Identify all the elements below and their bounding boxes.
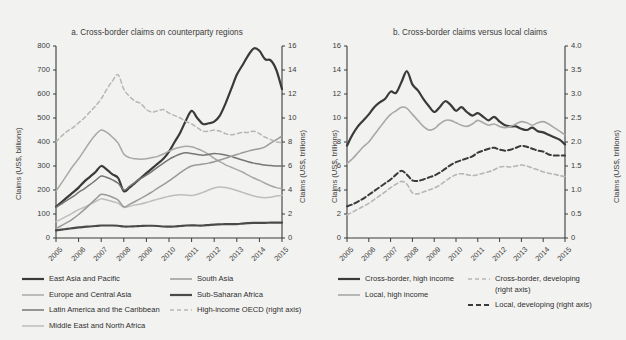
panel-a-ytick-left: 700: [20, 65, 50, 74]
legend-item[interactable]: Cross-border, developing: [468, 274, 580, 284]
panel-a-ytick-right: 10: [288, 113, 296, 122]
legend-item[interactable]: South Asia: [170, 274, 233, 284]
panel-a-ytick-left: 300: [20, 161, 50, 170]
legend-swatch: [338, 274, 360, 284]
panel-b-ytick-left: 12: [311, 89, 341, 98]
legend-swatch: [22, 290, 44, 300]
legend-item-label-cont: (right axis): [495, 285, 530, 294]
series-line: [347, 165, 565, 215]
panel-b-ytick-right: 2.0: [571, 137, 582, 146]
series-line: [347, 71, 565, 145]
panel-a-ytick-left: 200: [20, 185, 50, 194]
legend-item-label: Sub-Saharan Africa: [197, 290, 263, 300]
legend-swatch: [170, 305, 192, 315]
legend-swatch: [22, 321, 44, 331]
panel-a-ytick-right: 12: [288, 89, 296, 98]
legend-item-label: Cross-border, high income: [365, 274, 454, 284]
legend-item-label: Latin America and the Caribbean: [49, 305, 160, 315]
legend-item-label: Local, developing (right axis): [495, 300, 592, 310]
legend-swatch: [338, 290, 360, 300]
panel-a-ytick-right: 6: [288, 161, 292, 170]
panel-a-ytick-right: 0: [288, 233, 292, 242]
panel-a-ytick-left: 0: [20, 233, 50, 242]
panel-b-ytick-left: 16: [311, 41, 341, 50]
panel-a-ytick-left: 800: [20, 41, 50, 50]
legend-item-label: East Asia and Pacific: [49, 274, 120, 284]
panel-b-ytick-left: 0: [311, 233, 341, 242]
panel-b-ytick-left: 2: [311, 209, 341, 218]
panel-b-ytick-right: 1.0: [571, 185, 582, 194]
legend-item[interactable]: Sub-Saharan Africa: [170, 290, 263, 300]
legend-item[interactable]: East Asia and Pacific: [22, 274, 120, 284]
legend-item-label: Local, high income: [365, 290, 428, 300]
panel-b-ytick-right: 3.0: [571, 89, 582, 98]
legend-item[interactable]: High-income OECD (right axis): [170, 305, 301, 315]
legend-item[interactable]: Cross-border, high income: [338, 274, 454, 284]
panel-b-ytick-left: 14: [311, 65, 341, 74]
series-line: [347, 146, 565, 207]
panel-b-ytick-left: 8: [311, 137, 341, 146]
panel-a-ytick-left: 600: [20, 89, 50, 98]
legend-item-label: South Asia: [197, 274, 233, 284]
panel-a-ytick-right: 16: [288, 41, 296, 50]
panel-b-ytick-right: 3.5: [571, 65, 582, 74]
panel-a-ytick-left: 100: [20, 209, 50, 218]
legend-item[interactable]: Local, high income: [338, 290, 428, 300]
legend-swatch: [22, 274, 44, 284]
panel-a-ytick-right: 2: [288, 209, 292, 218]
panel-b-ytick-left: 10: [311, 113, 341, 122]
legend-item[interactable]: Middle East and North Africa: [22, 321, 145, 331]
legend-item-label: Cross-border, developing: [495, 274, 580, 284]
panel-a-ytick-right: 4: [288, 185, 292, 194]
series-line: [347, 107, 565, 164]
legend-swatch: [170, 274, 192, 284]
panel-b-ytick-right: 1.5: [571, 161, 582, 170]
panel-b-ytick-right: 2.5: [571, 113, 582, 122]
panel-b-ytick-right: 0.5: [571, 209, 582, 218]
panel-a-ytick-left: 500: [20, 113, 50, 122]
panel-a-ytick-right: 8: [288, 137, 292, 146]
legend-item[interactable]: Latin America and the Caribbean: [22, 305, 160, 315]
legend-item-label: Middle East and North Africa: [49, 321, 145, 331]
panel-a-ytick-right: 14: [288, 65, 296, 74]
panel-b-ytick-left: 6: [311, 161, 341, 170]
panel-b-ytick-right: 4.0: [571, 41, 582, 50]
panel-b-ytick-right: 0: [571, 233, 575, 242]
legend-item-label: Europe and Central Asia: [49, 290, 131, 300]
figure-root: a. Cross-border claims on counterparty r…: [0, 0, 626, 340]
legend-item[interactable]: Europe and Central Asia: [22, 290, 131, 300]
legend-swatch: [22, 305, 44, 315]
panel-a-ytick-left: 400: [20, 137, 50, 146]
legend-swatch: [170, 290, 192, 300]
legend-item-label: High-income OECD (right axis): [197, 305, 301, 315]
legend-item[interactable]: Local, developing (right axis): [468, 300, 592, 310]
legend-swatch: [468, 300, 490, 310]
panel-b-ytick-left: 4: [311, 185, 341, 194]
legend-swatch: [468, 274, 490, 284]
